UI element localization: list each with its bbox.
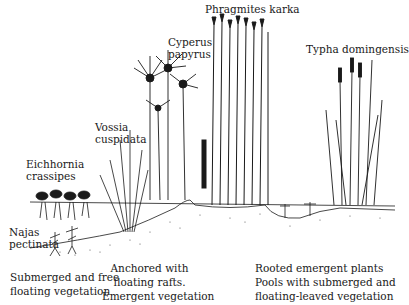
- label-phragmites-karka: Phragmites karka: [205, 3, 300, 16]
- label-eichhornia-crassipes-2: crassipes: [26, 170, 76, 183]
- sediment-profile: [30, 200, 395, 248]
- person-silhouette: [202, 140, 206, 188]
- caption-zone-submerged: Submerged and free floating vegetation: [10, 270, 100, 298]
- label-vossia-cuspidata-2: cuspidata: [95, 133, 147, 146]
- typha-plants: [326, 58, 382, 205]
- cyperus-plants: [134, 50, 198, 200]
- label-najas-pectinata-2: pectinata: [9, 238, 59, 251]
- eichhornia-plants: [36, 190, 90, 220]
- caption-zone-anchored: Anchored with floating rafts. Emergent v…: [102, 261, 197, 303]
- label-cyperus-papyrus-2: papyrus: [168, 48, 211, 61]
- pool-plants: [280, 202, 316, 218]
- label-typha-domingensis: Typha domingensis: [306, 43, 409, 56]
- caption-zone-rooted-emergent: Rooted emergent plants Pools with submer…: [255, 261, 365, 303]
